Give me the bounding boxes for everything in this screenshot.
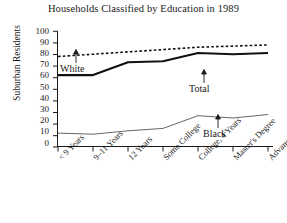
y-axis-ticks: [53, 31, 58, 147]
annotation-label-total: Total: [189, 83, 209, 94]
annotation-label-white: White: [60, 63, 84, 74]
series-line-total: [58, 53, 268, 75]
arrow-head-black: [216, 115, 221, 120]
axis-lines: [58, 31, 274, 147]
chart-figure: Households Classified by Education in 19…: [0, 0, 287, 223]
plot-area: [0, 0, 287, 223]
arrow-head-white: [74, 50, 79, 55]
arrow-head-total: [202, 70, 207, 75]
